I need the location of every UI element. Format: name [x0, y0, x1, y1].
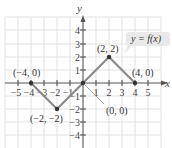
label-neg4-0: (−4, 0)	[13, 67, 40, 79]
svg-text:−4: −4	[69, 130, 80, 141]
label-0-0: (0, 0)	[106, 105, 128, 117]
point-2-2	[107, 55, 111, 59]
svg-text:−2: −2	[69, 104, 80, 115]
svg-text:3: 3	[75, 39, 80, 50]
svg-text:2: 2	[75, 52, 80, 63]
point-4-0	[133, 81, 137, 85]
label-4-0: (4, 0)	[132, 67, 154, 79]
svg-text:4: 4	[133, 87, 138, 98]
svg-text:1: 1	[75, 65, 80, 76]
svg-text:4: 4	[75, 25, 80, 36]
point-neg4-0	[29, 81, 33, 85]
y-axis-label: y	[76, 2, 82, 14]
svg-text:2: 2	[107, 87, 112, 98]
svg-text:−2: −2	[50, 87, 61, 98]
label-2-2: (2, 2)	[97, 43, 119, 55]
svg-text:−3: −3	[69, 117, 80, 128]
y-axis-arrow-icon	[81, 15, 86, 22]
label-neg2-neg2: (−2, −2)	[30, 113, 63, 125]
callout-label: y = f(x)	[130, 33, 162, 45]
point-neg2-neg2	[55, 107, 59, 111]
svg-text:−5: −5	[11, 87, 22, 98]
svg-text:3: 3	[120, 87, 125, 98]
chart: x y −5 −4 −3 −2 −1 1 2 3 4 5 4 3 2 1 −1 …	[0, 0, 172, 148]
svg-text:−4: −4	[24, 87, 35, 98]
svg-text:5: 5	[146, 87, 151, 98]
x-axis-label: x	[164, 77, 170, 89]
function-callout: y = f(x)	[124, 32, 170, 54]
